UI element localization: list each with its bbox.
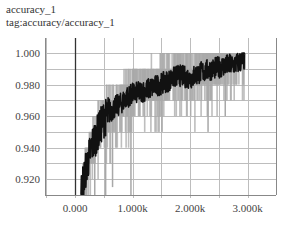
x-axis-labels: 0.0001.000k2.000k3.000k — [63, 202, 264, 214]
y-tick-label: 0.960 — [15, 110, 40, 122]
x-tick-label: 1.000k — [117, 202, 148, 214]
y-tick-label: 0.920 — [15, 173, 40, 185]
y-tick-label: 1.000 — [15, 47, 40, 59]
y-axis-labels: 0.9200.9400.9600.9801.000 — [15, 47, 40, 185]
accuracy-line-chart: 0.9200.9400.9600.9801.000 0.0001.000k2.0… — [0, 0, 285, 227]
x-tick-label: 2.000k — [175, 202, 206, 214]
x-tick-label: 3.000k — [232, 202, 263, 214]
y-tick-label: 0.980 — [15, 79, 40, 91]
x-tick-label: 0.000 — [63, 202, 88, 214]
y-tick-label: 0.940 — [15, 142, 40, 154]
